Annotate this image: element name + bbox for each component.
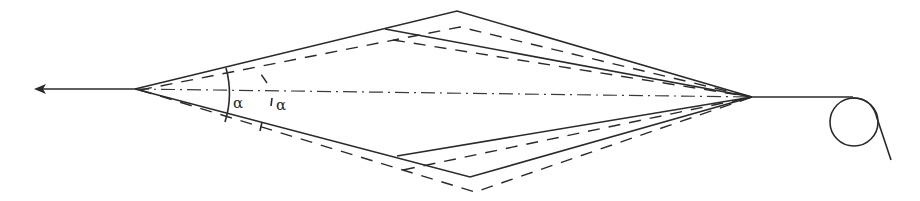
rhombus-diagram: α α — [0, 0, 920, 201]
strand-tail — [853, 98, 891, 160]
solid-bottom-outer-edge — [135, 89, 752, 177]
solid-top-inner-edge — [385, 29, 752, 97]
dashed-bottom-inner-edge — [403, 97, 752, 170]
arrow-left-icon — [34, 84, 135, 94]
angle-arc-dashed — [260, 73, 267, 83]
solid-top-outer-edge — [135, 11, 752, 97]
angle-tick-dashed — [271, 98, 272, 106]
dashed-top-inner-edge — [393, 40, 752, 97]
dashed-top-outer-edge — [140, 27, 752, 97]
dashed-bottom-outer-edge — [140, 90, 752, 192]
alpha-label-dashed: α — [276, 96, 286, 114]
alpha-label-solid: α — [233, 94, 243, 112]
angle-tick-bottom — [260, 122, 262, 131]
center-axis — [135, 89, 752, 97]
